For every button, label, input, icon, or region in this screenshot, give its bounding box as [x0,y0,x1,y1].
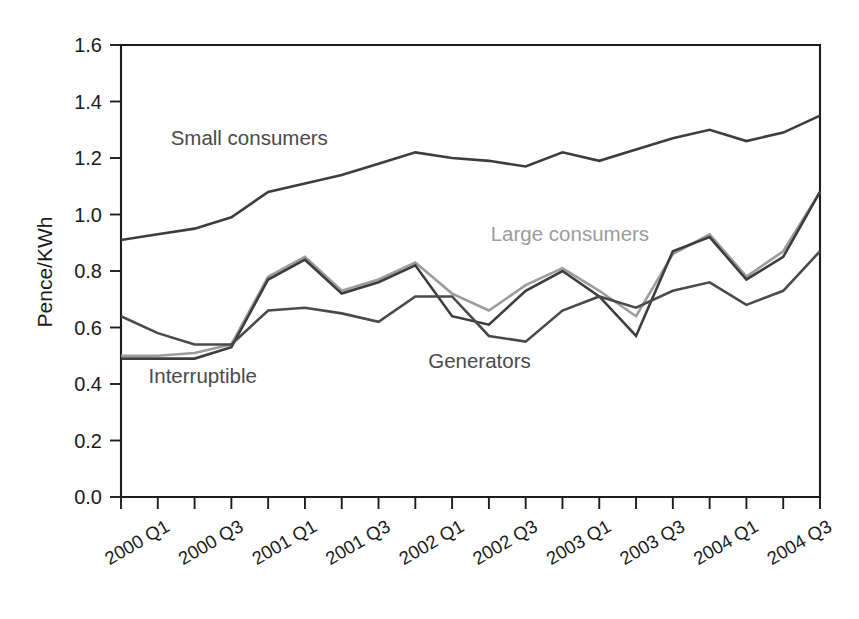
annotation-small-consumers: Small consumers [171,126,328,149]
y-tick-label: 1.0 [74,204,102,226]
y-tick-label: 1.2 [74,147,102,169]
series-line-interruptible [121,251,820,344]
x-tick-label: 2002 Q3 [469,515,541,569]
plot-frame [121,45,820,497]
x-tick-label: 2004 Q3 [763,515,835,569]
x-tick-label: 2003 Q3 [616,515,688,569]
annotation-interruptible: Interruptible [149,364,257,387]
y-tick-label: 0.0 [74,486,102,508]
axis-frame [121,45,820,497]
series-line-generators [121,192,820,359]
y-axis-title-group: Pence/KWh [33,217,56,328]
annotation-large-consumers: Large consumers [491,222,649,245]
y-axis-tick-labels: 0.00.20.40.60.81.01.21.41.6 [74,34,102,508]
line-chart: Pence/KWh 0.00.20.40.60.81.01.21.41.6 20… [0,0,859,619]
chart-container: Pence/KWh 0.00.20.40.60.81.01.21.41.6 20… [0,0,859,619]
y-axis-tick-marks [110,45,121,497]
y-axis-title: Pence/KWh [33,217,56,328]
series-line-large-consumers [121,192,820,356]
x-tick-label: 2001 Q1 [248,515,320,569]
y-tick-label: 1.4 [74,91,102,113]
y-tick-label: 0.6 [74,317,102,339]
x-tick-label: 2001 Q3 [322,515,394,569]
data-series-group [121,116,820,359]
x-tick-label: 2000 Q1 [101,515,173,569]
y-tick-label: 1.6 [74,34,102,56]
x-tick-label: 2002 Q1 [395,515,467,569]
x-tick-label: 2004 Q1 [690,515,762,569]
y-tick-label: 0.4 [74,373,102,395]
x-tick-label: 2000 Q3 [175,515,247,569]
y-tick-label: 0.2 [74,430,102,452]
x-tick-label: 2003 Q1 [542,515,614,569]
annotation-generators: Generators [428,349,531,372]
x-axis-tick-labels: 2000 Q12000 Q32001 Q12001 Q32002 Q12002 … [101,515,835,569]
y-tick-label: 0.8 [74,260,102,282]
x-axis-tick-marks [121,497,820,509]
